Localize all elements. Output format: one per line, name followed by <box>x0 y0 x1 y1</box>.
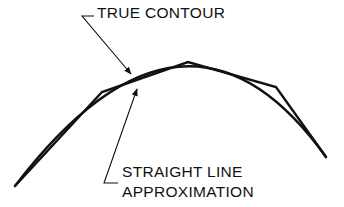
straight-line-label-line1: STRAIGHT LINE <box>122 162 254 182</box>
true-contour-leader <box>82 16 131 74</box>
true-contour-label: TRUE CONTOUR <box>97 3 225 23</box>
straight-line-approximation-label: STRAIGHT LINE APPROXIMATION <box>122 162 254 202</box>
straight-line-label-line2: APPROXIMATION <box>122 182 254 202</box>
